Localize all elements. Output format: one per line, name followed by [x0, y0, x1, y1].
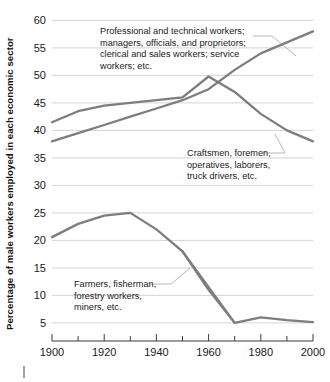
annotation-professional-line: Professional and technical workers; [100, 26, 245, 36]
y-axis-title: Percentage of male workers employed in e… [4, 37, 15, 330]
annotation-farmers-line: miners, etc. [74, 302, 121, 312]
y-tick-label: 10 [34, 289, 46, 301]
y-tick-label: 20 [34, 234, 46, 246]
x-tick-label: 1940 [144, 346, 168, 358]
y-tick-label: 15 [34, 262, 46, 274]
x-tick-label: 1920 [92, 346, 116, 358]
annotation-professional: Professional and technical workers; mana… [99, 26, 246, 71]
annotation-craftsmen-line: Craftsmen, foremen, [187, 148, 271, 158]
annotation-farmers-line: forestry workers, [74, 291, 142, 301]
annotation-professional-line: workers; etc. [99, 61, 152, 71]
x-axis-tick-labels: 1900 1920 1940 1960 1980 2000 [40, 346, 325, 358]
y-tick-label: 35 [34, 152, 46, 164]
y-tick-label: 30 [34, 179, 46, 191]
gridlines [52, 20, 313, 323]
x-tick-label: 1900 [40, 346, 64, 358]
x-axis [52, 334, 313, 341]
x-tick-label: 2000 [301, 346, 325, 358]
annotation-craftsmen: Craftsmen, foremen, operatives, laborers… [187, 148, 271, 181]
y-tick-label: 60 [34, 14, 46, 26]
y-axis-title-text: Percentage of male workers employed in e… [4, 37, 15, 330]
annotation-professional-line: clerical and sales workers; service [100, 49, 239, 59]
annotation-craftsmen-line: operatives, laborers, [187, 160, 270, 170]
series-line-craftsmen-operatives [52, 77, 313, 142]
y-tick-label: 5 [40, 317, 46, 329]
annotation-professional-line: managers, officials, and proprietors; [100, 38, 246, 48]
annotation-craftsmen-line: truck drivers, etc. [187, 171, 257, 181]
line-chart: Percentage of male workers employed in e… [0, 0, 330, 382]
y-tick-label: 40 [34, 124, 46, 136]
y-tick-label: 50 [34, 69, 46, 81]
x-tick-label: 1960 [196, 346, 220, 358]
y-tick-label: 25 [34, 207, 46, 219]
chart-container: Percentage of male workers employed in e… [0, 0, 330, 382]
annotation-farmers-line: Farmers, fisherman, [74, 279, 156, 289]
y-axis-tick-labels: 60 55 50 45 40 35 30 25 20 15 10 5 [34, 14, 46, 329]
y-tick-label: 45 [34, 97, 46, 109]
y-tick-label: 55 [34, 42, 46, 54]
x-tick-label: 1980 [249, 346, 273, 358]
